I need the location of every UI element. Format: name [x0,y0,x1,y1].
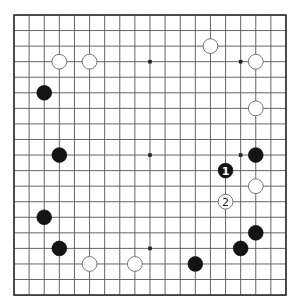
go-board[interactable]: 21 [0,0,300,308]
white-stone-disc [52,54,67,69]
white-stone-disc [203,39,218,54]
white-stone[interactable] [82,257,97,272]
black-stone-disc [233,241,248,256]
black-stone[interactable] [37,210,52,225]
black-stone[interactable] [248,148,263,163]
white-stone[interactable] [203,39,218,54]
black-stone[interactable] [233,241,248,256]
move-number-label: 1 [222,165,230,178]
white-stone[interactable] [127,257,142,272]
star-point [148,153,152,157]
white-stone[interactable]: 2 [218,194,233,209]
black-stone-disc [248,148,263,163]
black-stone[interactable] [37,85,52,100]
black-stone-disc [188,257,203,272]
black-stone-disc [37,210,52,225]
move-number-label: 2 [222,196,229,209]
black-stone[interactable] [52,241,67,256]
black-stone-disc [52,241,67,256]
black-stone-disc [37,85,52,100]
white-stone[interactable] [248,179,263,194]
black-stone-disc [52,148,67,163]
black-stone-disc [248,225,263,240]
black-stone[interactable] [248,225,263,240]
white-stone-disc [248,101,263,116]
white-stone-disc [248,179,263,194]
star-point [239,60,243,64]
white-stone[interactable] [82,54,97,69]
white-stone-disc [248,54,263,69]
white-stone-disc [82,54,97,69]
black-stone[interactable] [52,148,67,163]
white-stone[interactable] [52,54,67,69]
star-point [148,247,152,251]
star-point [148,60,152,64]
white-stone-disc [82,257,97,272]
white-stone[interactable] [248,101,263,116]
white-stone[interactable] [248,54,263,69]
black-stone[interactable]: 1 [218,163,233,178]
black-stone[interactable] [188,257,203,272]
star-point [239,153,243,157]
white-stone-disc [127,257,142,272]
